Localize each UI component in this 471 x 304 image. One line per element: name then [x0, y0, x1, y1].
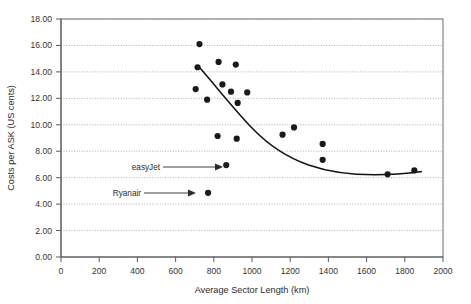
x-axis-title: Average Sector Length (km) [195, 285, 310, 295]
x-axis-tickmarks [61, 257, 443, 262]
data-point [205, 190, 211, 196]
data-point [411, 167, 417, 173]
y-tick-label: 14.00 [30, 67, 52, 77]
chart-container: 18.00 16.00 14.00 12.00 10.00 8.00 6.00 … [0, 0, 471, 304]
y-tick-label: 16.00 [30, 40, 52, 50]
data-point [223, 162, 229, 168]
y-tick-label: 10.00 [30, 120, 52, 130]
y-axis-title: Costs per ASK (US cents) [6, 85, 16, 191]
data-point [320, 141, 326, 147]
data-point [244, 89, 250, 95]
data-point [193, 86, 199, 92]
data-point [233, 62, 239, 68]
y-tick-label: 4.00 [35, 199, 52, 209]
y-axis-tick-labels: 18.00 16.00 14.00 12.00 10.00 8.00 6.00 … [30, 14, 52, 262]
x-tick-label: 600 [168, 266, 183, 276]
data-point [215, 59, 221, 65]
data-point [219, 81, 225, 87]
x-tick-label: 1000 [242, 266, 261, 276]
data-point [279, 132, 285, 138]
annotation-label-ryanair: Ryanair [113, 189, 141, 198]
y-tick-label: 12.00 [30, 93, 52, 103]
data-point [196, 41, 202, 47]
data-point [320, 157, 326, 163]
y-tick-label: 6.00 [35, 173, 52, 183]
x-tick-label: 400 [130, 266, 145, 276]
y-tick-label: 8.00 [35, 146, 52, 156]
x-tick-label: 1200 [281, 266, 300, 276]
data-point [215, 133, 221, 139]
x-tick-label: 1400 [319, 266, 338, 276]
data-point [385, 171, 391, 177]
x-tick-label: 1800 [395, 266, 414, 276]
plot-area-frame [61, 19, 443, 257]
data-point [228, 89, 234, 95]
x-tick-label: 2000 [433, 266, 452, 276]
data-point [235, 100, 241, 106]
x-tick-label: 0 [59, 266, 64, 276]
data-point [291, 124, 297, 130]
y-tick-label: 2.00 [35, 226, 52, 236]
annotation-label-easyjet: easyJet [132, 163, 161, 172]
data-point [234, 136, 240, 142]
data-point [204, 97, 210, 103]
data-point [194, 64, 200, 70]
y-tick-label: 18.00 [30, 14, 52, 24]
y-axis-tickmarks [56, 19, 61, 257]
y-tick-label: 0.00 [35, 252, 52, 262]
x-axis-tick-labels: 0 200 400 600 800 1000 1200 1400 1600 18… [59, 266, 453, 276]
scatter-chart: 18.00 16.00 14.00 12.00 10.00 8.00 6.00 … [0, 0, 471, 304]
x-tick-label: 1600 [357, 266, 376, 276]
x-tick-label: 200 [92, 266, 107, 276]
x-tick-label: 800 [207, 266, 222, 276]
